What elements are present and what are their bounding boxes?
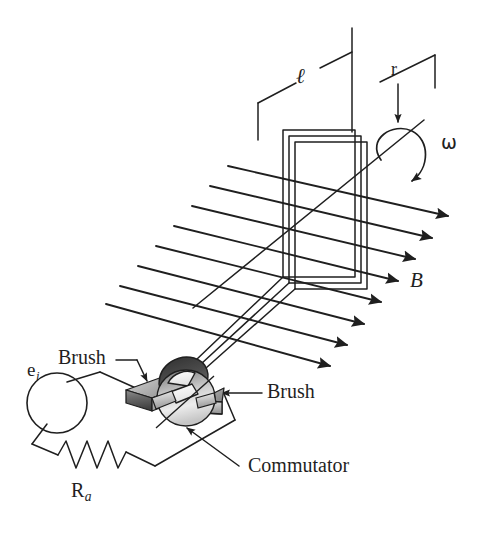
radius-label: r (391, 60, 397, 78)
commutator-body (157, 357, 215, 426)
voltage-source-label: ei (27, 360, 40, 383)
commutator-label: Commutator (248, 455, 349, 475)
length-dimension (258, 28, 352, 140)
resistance-subscript: a (84, 489, 91, 504)
length-label: ℓ (296, 66, 305, 87)
radius-dimension (380, 55, 435, 122)
magnetic-field-label: B (410, 270, 423, 291)
resistance-symbol-text: R (71, 479, 84, 501)
field-lines (106, 166, 448, 366)
dc-motor-diagram: ℓ r ω B Brush Brush Commutator ei Ra (0, 0, 486, 545)
armature-coil (283, 130, 367, 289)
armature-resistance-label: Ra (71, 480, 92, 503)
coil-leads (196, 277, 295, 368)
brush-left-label: Brush (58, 347, 106, 367)
brush-right-label: Brush (267, 381, 315, 401)
omega-rotation-arrow (377, 129, 426, 181)
voltage-source-subscript: i (35, 368, 39, 383)
angular-velocity-label: ω (441, 133, 457, 152)
